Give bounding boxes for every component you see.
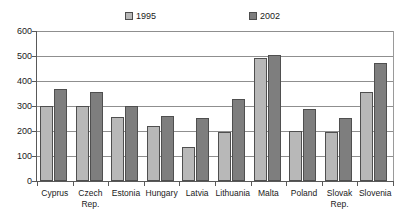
bar-2002-slovenia	[374, 63, 387, 181]
bar-2002-estonia	[125, 106, 138, 181]
x-axis-label-line: Slovak	[327, 188, 353, 198]
bar-1995-lithuania	[218, 132, 231, 181]
x-axis-label: Lithuania	[215, 188, 251, 199]
bar-1995-latvia	[182, 147, 195, 181]
legend-item-1995: 1995	[125, 9, 156, 23]
x-axis-label-line: Cyprus	[41, 188, 68, 198]
y-axis-tick-marks	[0, 31, 36, 181]
x-axis-label-line: Latvia	[186, 188, 209, 198]
bar-1995-poland	[289, 131, 302, 181]
bar-2002-poland	[303, 109, 316, 182]
x-axis-label: Slovenia	[357, 188, 393, 199]
bar-chart: 1995 2002 0100200300400500600 CyprusCzec…	[0, 0, 404, 222]
bar-group	[322, 31, 358, 181]
x-axis-tick-mark	[179, 182, 180, 186]
bar-1995-slovenia	[360, 92, 373, 182]
legend-label: 2002	[260, 11, 280, 21]
bar-group	[144, 31, 180, 181]
bar-group	[73, 31, 109, 181]
x-axis-label-line: Malta	[258, 188, 279, 198]
bar-1995-estonia	[111, 117, 124, 182]
x-axis-tick-mark	[322, 182, 323, 186]
x-axis-label: Hungary	[144, 188, 180, 199]
x-axis-label-line: Rep.	[72, 199, 108, 210]
x-axis-labels: CyprusCzechRep.EstoniaHungaryLatviaLithu…	[37, 188, 393, 218]
bar-2002-czech-rep	[90, 92, 103, 182]
x-axis-tick-mark	[37, 182, 38, 186]
plot-frame-right-edge	[393, 31, 394, 181]
bar-1995-malta	[254, 58, 267, 181]
bar-2002-lithuania	[232, 99, 245, 182]
chart-legend: 1995 2002	[0, 9, 404, 25]
x-axis-label: Cyprus	[37, 188, 73, 199]
x-axis-label-line: Slovenia	[359, 188, 392, 198]
x-axis-label: Estonia	[108, 188, 144, 199]
x-axis-label-line: Estonia	[112, 188, 140, 198]
bar-2002-malta	[268, 55, 281, 181]
bar-1995-cyprus	[40, 106, 53, 181]
bar-group	[286, 31, 322, 181]
bar-2002-latvia	[196, 118, 209, 181]
legend-swatch-icon	[125, 12, 133, 20]
bar-2002-hungary	[161, 116, 174, 181]
bar-group	[179, 31, 215, 181]
x-axis-label-line: Hungary	[146, 188, 178, 198]
x-axis-label: SlovakRep.	[322, 188, 358, 210]
x-axis-label-line: Czech	[78, 188, 102, 198]
x-axis-label-line: Poland	[291, 188, 317, 198]
bar-series-container	[37, 31, 393, 181]
x-axis-tick-mark	[108, 182, 109, 186]
bar-group	[215, 31, 251, 181]
x-axis-tick-mark	[393, 182, 394, 186]
bar-2002-slovak-rep	[339, 118, 352, 181]
x-axis-label: Poland	[286, 188, 322, 199]
bar-2002-cyprus	[54, 89, 67, 182]
x-axis-tick-mark	[286, 182, 287, 186]
x-axis-tick-mark	[215, 182, 216, 186]
x-axis-label-line: Lithuania	[216, 188, 251, 198]
x-axis-tick-mark	[251, 182, 252, 186]
x-axis-tick-mark	[357, 182, 358, 186]
x-axis-label: Malta	[250, 188, 286, 199]
legend-item-2002: 2002	[249, 9, 280, 23]
x-axis-label-line: Rep.	[322, 199, 358, 210]
x-axis-label: CzechRep.	[72, 188, 108, 210]
x-axis-tick-mark	[144, 182, 145, 186]
bar-group	[108, 31, 144, 181]
bar-1995-czech-rep	[76, 106, 89, 181]
legend-swatch-icon	[249, 12, 257, 20]
bar-group	[357, 31, 393, 181]
legend-label: 1995	[136, 11, 156, 21]
bar-group	[37, 31, 73, 181]
bar-1995-slovak-rep	[325, 132, 338, 181]
bar-group	[251, 31, 287, 181]
x-axis-tick-mark	[73, 182, 74, 186]
x-axis-label: Latvia	[179, 188, 215, 199]
bar-1995-hungary	[147, 126, 160, 181]
